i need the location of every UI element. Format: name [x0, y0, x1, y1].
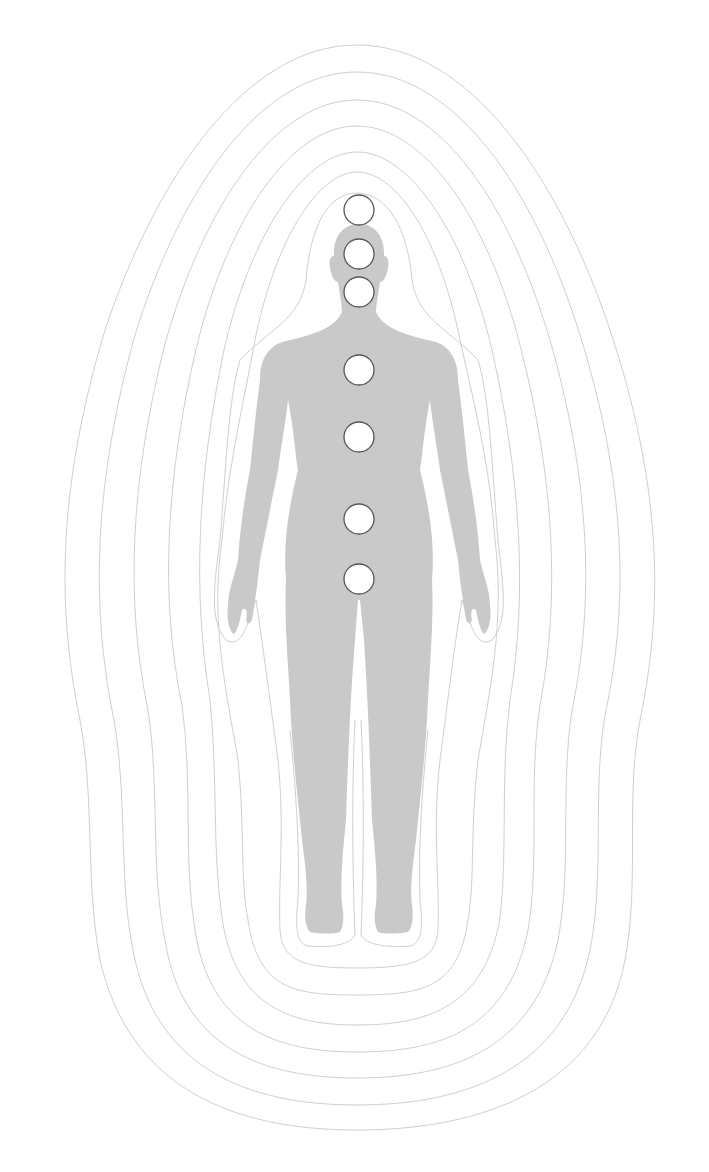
chakra-throat	[344, 277, 374, 307]
chakra-sacral	[344, 504, 374, 534]
chakra-root	[344, 564, 374, 594]
chakra-solar-plexus	[344, 422, 374, 452]
aura-diagram	[0, 0, 709, 1172]
chakra-crown	[344, 195, 374, 225]
aura-diagram-canvas	[0, 0, 709, 1172]
chakra-third-eye	[344, 239, 374, 269]
chakra-heart	[344, 355, 374, 385]
